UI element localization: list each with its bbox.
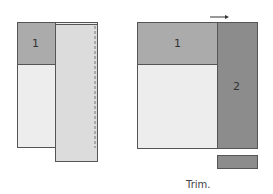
caption-trim: Trim. (186, 180, 210, 190)
trim-piece (217, 155, 258, 169)
